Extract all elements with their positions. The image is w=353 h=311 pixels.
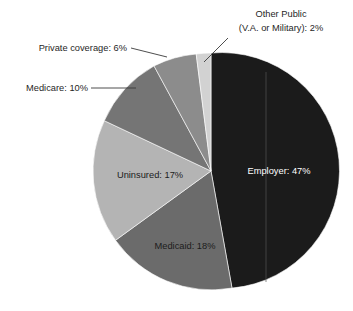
pie-chart-figure: Other Public (V.A. or Military): 2% Priv… xyxy=(0,0,353,311)
slice-label-other-public-line2: (V.A. or Military): 2% xyxy=(239,23,323,33)
slice-label-medicare: Medicare: 10% xyxy=(26,83,88,93)
slice-label-medicaid: Medicaid: 18% xyxy=(155,241,216,251)
slice-label-other-public-line1: Other Public xyxy=(255,9,307,19)
leader-line-private-coverage xyxy=(131,48,167,57)
slice-label-uninsured: Uninsured: 17% xyxy=(117,170,183,180)
pie-chart-canvas: Other Public (V.A. or Military): 2% Priv… xyxy=(0,0,353,311)
slice-label-private-coverage: Private coverage: 6% xyxy=(39,43,127,53)
slice-label-employer: Employer: 47% xyxy=(247,166,310,176)
